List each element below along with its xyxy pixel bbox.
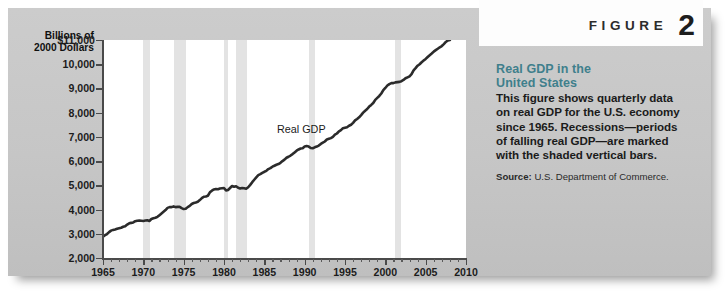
x-axis-minor-tick <box>272 259 273 262</box>
x-axis-minor-tick <box>434 259 435 262</box>
gdp-line-chart <box>103 40 466 258</box>
x-axis-minor-tick <box>240 259 241 262</box>
x-axis-minor-tick <box>313 259 314 262</box>
y-axis-tick <box>96 161 103 162</box>
x-axis-minor-tick <box>208 259 209 262</box>
x-axis-minor-tick <box>442 259 443 262</box>
x-axis-minor-tick <box>248 259 249 262</box>
x-axis-tick-label: 1975 <box>164 266 204 278</box>
figure-root: FIGURE 2 Real GDP in the United States T… <box>0 0 727 304</box>
x-axis-minor-tick <box>168 259 169 262</box>
y-axis-tick-label: 5,000 <box>9 179 95 191</box>
y-axis-tick <box>96 185 103 186</box>
x-axis-major-tick <box>305 259 306 265</box>
caption-title-line2: United States <box>496 76 686 90</box>
x-axis-minor-tick <box>280 259 281 262</box>
caption-body: This figure shows quarterly data on real… <box>496 91 686 162</box>
y-axis-tick-label: 6,000 <box>9 155 95 167</box>
series-annotation-label: Real GDP <box>277 123 326 135</box>
figure-header: FIGURE 2 <box>479 8 695 42</box>
figure-word-label: FIGURE <box>589 18 668 33</box>
caption-source-text: U.S. Department of Commerce. <box>534 171 668 182</box>
y-axis-tick-label: 9,000 <box>9 82 95 94</box>
y-axis-tick-label: 3,000 <box>9 228 95 240</box>
x-axis-minor-tick <box>232 259 233 262</box>
x-axis-tick-label: 1965 <box>83 266 123 278</box>
y-axis-tick <box>96 234 103 235</box>
y-axis-line <box>102 40 104 259</box>
x-axis-minor-tick <box>418 259 419 262</box>
x-axis-minor-tick <box>119 259 120 262</box>
y-axis-tick <box>96 137 103 138</box>
y-axis-tick <box>96 113 103 114</box>
x-axis-major-tick <box>345 259 346 265</box>
x-axis-tick-label: 2000 <box>365 266 405 278</box>
x-axis-tick-label: 2005 <box>406 266 446 278</box>
gdp-line-path <box>103 40 450 237</box>
figure-caption: Real GDP in the United States This figur… <box>496 62 686 183</box>
figure-number-label: 2 <box>678 10 695 40</box>
x-axis-minor-tick <box>401 259 402 262</box>
x-axis-major-tick <box>143 259 144 265</box>
x-axis-minor-tick <box>159 259 160 262</box>
x-axis-minor-tick <box>297 259 298 262</box>
x-axis-tick-label: 1990 <box>285 266 325 278</box>
y-axis-tick-label: 10,000 <box>9 58 95 70</box>
y-axis-tick-label: $11,000 <box>9 34 95 46</box>
x-axis-tick-label: 1970 <box>123 266 163 278</box>
y-axis-tick <box>96 64 103 65</box>
x-axis-minor-tick <box>410 259 411 262</box>
x-axis-minor-tick <box>361 259 362 262</box>
x-axis-minor-tick <box>337 259 338 262</box>
x-axis-tick-label: 1980 <box>204 266 244 278</box>
x-axis-major-tick <box>385 259 386 265</box>
x-axis-tick-label: 1985 <box>244 266 284 278</box>
caption-title: Real GDP in the United States <box>496 62 686 90</box>
x-axis-tick-label: 2010 <box>446 266 486 278</box>
x-axis-minor-tick <box>321 259 322 262</box>
x-axis-minor-tick <box>458 259 459 262</box>
y-axis-tick-label: 2,000 <box>9 252 95 264</box>
plot-area <box>103 40 466 258</box>
y-axis-tick-label: 7,000 <box>9 131 95 143</box>
x-axis-minor-tick <box>176 259 177 262</box>
x-axis-minor-tick <box>135 259 136 262</box>
x-axis-minor-tick <box>200 259 201 262</box>
x-axis-minor-tick <box>111 259 112 262</box>
x-axis-minor-tick <box>353 259 354 262</box>
x-axis-minor-tick <box>192 259 193 262</box>
x-axis-major-tick <box>466 259 467 265</box>
y-axis-tick <box>96 258 103 259</box>
x-axis-minor-tick <box>369 259 370 262</box>
y-axis-tick-label: 4,000 <box>9 204 95 216</box>
x-axis-minor-tick <box>329 259 330 262</box>
x-axis-minor-tick <box>151 259 152 262</box>
x-axis-minor-tick <box>377 259 378 262</box>
x-axis-major-tick <box>264 259 265 265</box>
caption-title-line1: Real GDP in the <box>496 62 686 76</box>
y-axis-tick-label: 8,000 <box>9 107 95 119</box>
x-axis-major-tick <box>184 259 185 265</box>
y-axis-tick <box>96 88 103 89</box>
x-axis-minor-tick <box>450 259 451 262</box>
x-axis-minor-tick <box>289 259 290 262</box>
x-axis-major-tick <box>426 259 427 265</box>
y-axis-tick <box>96 40 103 41</box>
x-axis-minor-tick <box>127 259 128 262</box>
y-axis-tick <box>96 210 103 211</box>
x-axis-minor-tick <box>393 259 394 262</box>
x-axis-tick-label: 1995 <box>325 266 365 278</box>
x-axis-line <box>102 258 467 260</box>
x-axis-minor-tick <box>216 259 217 262</box>
x-axis-major-tick <box>103 259 104 265</box>
caption-source: Source: U.S. Department of Commerce. <box>496 171 686 183</box>
x-axis-minor-tick <box>256 259 257 262</box>
x-axis-major-tick <box>224 259 225 265</box>
caption-source-label: Source: <box>496 171 532 182</box>
